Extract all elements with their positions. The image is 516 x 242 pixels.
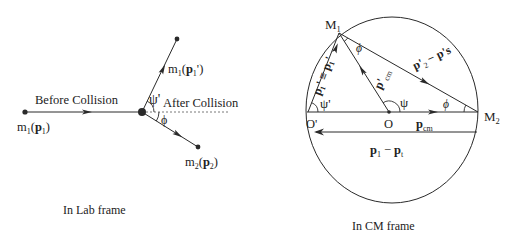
scattered-particle-label: m1(p1') — [168, 62, 203, 78]
phi-top-label: ϕ — [356, 42, 362, 55]
psi-prime-label: ψ' — [149, 92, 160, 107]
pcm-label: pcm — [416, 117, 434, 133]
phi-right-arc — [464, 105, 466, 112]
pcm-prime-label: p'cm — [371, 66, 395, 92]
scattered-arrow-icon — [159, 63, 168, 74]
phi-arc — [156, 112, 159, 121]
p2-prime-arrow-icon — [419, 77, 430, 86]
O-prime-label: O' — [306, 117, 317, 131]
p1-prime-label: p₁' ≡ p₁' — [310, 55, 337, 97]
lab-frame-caption: In Lab frame — [63, 203, 126, 217]
psi-prime-label: ψ' — [320, 96, 330, 111]
recoil-particle-label: m2(p2) — [185, 155, 218, 171]
phi-label: ϕ — [161, 113, 167, 127]
recoil-trajectory — [142, 112, 198, 147]
phi-top-arc — [344, 38, 348, 41]
recoil-arrow-icon — [172, 130, 183, 140]
phi-right-label: ϕ — [443, 98, 449, 111]
collision-diagram: Before Collision m1(p1) m1(p1') ψ' After… — [0, 0, 516, 242]
cm-frame-caption: In CM frame — [352, 219, 415, 233]
scattered-particle-dot — [175, 37, 180, 42]
lab-frame-diagram: Before Collision m1(p1) m1(p1') ψ' After… — [17, 37, 239, 217]
incoming-particle-dot — [22, 109, 27, 114]
incoming-particle-label: m1(p1) — [17, 120, 50, 136]
O-label: O — [384, 117, 393, 131]
momentum-circle — [306, 17, 478, 203]
after-collision-label: After Collision — [163, 96, 239, 110]
psi-label: ψ — [400, 95, 408, 110]
recoil-particle-dot — [196, 145, 201, 150]
M2-label: M2 — [484, 109, 500, 126]
before-collision-label: Before Collision — [35, 93, 119, 107]
psi-prime-arc — [312, 103, 318, 112]
M1-label: M1 — [325, 17, 341, 34]
p2-prime-label: p'2− p's — [410, 43, 454, 75]
p1-minus-pt-label: p1−pt — [370, 143, 404, 159]
center-point-O — [387, 110, 391, 114]
cm-frame-diagram: M1 M2 O' O p₁' ≡ p₁' p'cm p'2− p's pcm p… — [306, 17, 500, 233]
